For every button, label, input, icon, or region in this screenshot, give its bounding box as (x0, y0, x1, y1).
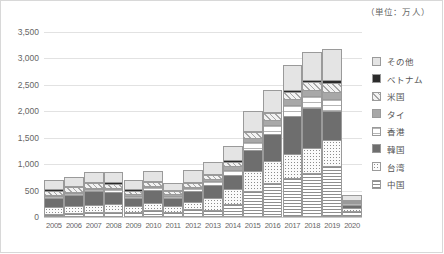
bar-segment-other (84, 172, 104, 182)
bar-column[interactable] (243, 111, 263, 217)
bar-segment-china (104, 212, 124, 217)
bar-segment-china (163, 212, 183, 217)
legend-swatch-icon (372, 180, 381, 189)
legend-item-korea[interactable]: 韓国 (372, 143, 423, 155)
bar-segment-china (342, 211, 362, 217)
x-axis-tick-label: 2009 (124, 221, 144, 230)
bar-column[interactable] (143, 171, 163, 218)
x-axis-tick-label: 2014 (223, 221, 243, 230)
bar-segment-taiwan (183, 202, 203, 210)
legend-label: その他 (387, 55, 414, 67)
legend-label: 米国 (387, 90, 405, 102)
bar-segment-hongkong (283, 105, 303, 117)
bar-segment-korea (283, 116, 303, 154)
bar-segment-hongkong (322, 99, 342, 111)
bar-segment-china (84, 212, 104, 217)
y-axis-tick-label: 3,000 (18, 53, 39, 63)
legend-item-usa[interactable]: 米国 (372, 90, 423, 102)
bar-segment-other (322, 49, 342, 81)
x-axis-tick-label: 2012 (183, 221, 203, 230)
bar-segment-korea (84, 191, 104, 205)
legend-swatch-icon (372, 144, 381, 153)
x-axis-labels: 2005200620072008200920102011201220132014… (44, 221, 362, 230)
bar-segment-korea (183, 191, 203, 202)
legend-item-vietnam[interactable]: ベトナム (372, 73, 423, 85)
bar-segment-taiwan (302, 148, 322, 173)
x-axis-tick-label: 2017 (283, 221, 303, 230)
bar-segment-taiwan (64, 206, 84, 213)
bar-segment-china (263, 183, 283, 217)
bar-column[interactable] (302, 52, 322, 217)
x-axis-tick-label: 2005 (44, 221, 64, 230)
bar-segment-taiwan (263, 161, 283, 183)
bar-segment-usa (322, 83, 342, 92)
bar-segment-other (143, 171, 163, 182)
bar-segment-china (322, 166, 342, 217)
legend-swatch-icon (372, 109, 381, 118)
bar-segment-taiwan (203, 198, 223, 210)
legend-label: 台湾 (387, 161, 405, 173)
legend-item-thailand[interactable]: タイ (372, 108, 423, 120)
x-axis-tick-label: 2018 (302, 221, 322, 230)
bar-segment-other (124, 180, 144, 190)
x-axis-tick-label: 2007 (84, 221, 104, 230)
bar-segment-korea (322, 111, 342, 140)
bar-segment-usa (283, 92, 303, 99)
bar-segment-hongkong (243, 142, 263, 150)
legend-swatch-icon (372, 92, 381, 101)
bar-column[interactable] (283, 65, 303, 217)
bar-column[interactable] (104, 172, 124, 217)
bar-segment-other (223, 146, 243, 161)
bar-segment-other (283, 65, 303, 90)
y-axis-tick-label: 3,500 (18, 27, 39, 37)
bar-segment-other (44, 180, 64, 189)
legend-item-other[interactable]: その他 (372, 55, 423, 67)
x-axis-tick-label: 2013 (203, 221, 223, 230)
bar-column[interactable] (203, 162, 223, 217)
bar-segment-china (223, 204, 243, 217)
bar-column[interactable] (263, 90, 283, 217)
legend-item-taiwan[interactable]: 台湾 (372, 161, 423, 173)
legend-item-china[interactable]: 中国 (372, 178, 423, 190)
bar-segment-korea (143, 190, 163, 203)
bar-segment-china (283, 178, 303, 217)
bar-segment-other (104, 172, 124, 183)
bar-segment-taiwan (283, 154, 303, 178)
bar-segment-taiwan (84, 205, 104, 212)
unit-annotation: （単位：万人） (366, 5, 430, 17)
x-axis-baseline (44, 217, 362, 218)
bar-segment-korea (163, 198, 183, 207)
bar-segment-taiwan (104, 204, 124, 211)
legend-swatch-icon (372, 162, 381, 171)
bar-column[interactable] (64, 177, 84, 217)
chart-legend: その他ベトナム米国タイ香港韓国台湾中国 (372, 55, 423, 190)
bar-segment-other (64, 177, 84, 186)
bar-column[interactable] (44, 180, 64, 217)
x-axis-tick-label: 2011 (163, 221, 183, 230)
legend-swatch-icon (372, 127, 381, 136)
legend-label: ベトナム (387, 73, 423, 85)
bar-column[interactable] (163, 183, 183, 217)
bar-column[interactable] (223, 146, 243, 217)
bar-segment-korea (124, 198, 144, 206)
bar-segment-china (302, 173, 322, 217)
x-axis-tick-label: 2019 (322, 221, 342, 230)
bar-segment-china (183, 209, 203, 217)
bar-column[interactable] (342, 195, 362, 217)
x-axis-tick-label: 2008 (104, 221, 124, 230)
bar-column[interactable] (84, 172, 104, 217)
bar-segment-china (44, 214, 64, 217)
bar-segment-korea (203, 185, 223, 198)
bar-column[interactable] (124, 180, 144, 217)
bar-segment-china (143, 210, 163, 217)
bar-segment-other (263, 90, 283, 112)
legend-swatch-icon (372, 74, 381, 83)
bar-segment-usa (302, 82, 322, 90)
bar-column[interactable] (183, 170, 203, 217)
legend-item-hongkong[interactable]: 香港 (372, 125, 423, 137)
y-axis-tick-label: 2,000 (18, 106, 39, 116)
x-axis-tick-label: 2006 (64, 221, 84, 230)
bar-column[interactable] (322, 49, 342, 217)
bar-segment-taiwan (44, 207, 64, 214)
bar-segment-other (243, 111, 263, 131)
